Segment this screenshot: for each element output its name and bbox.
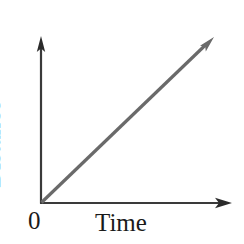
distance-time-graph: Distance Time 0: [0, 0, 244, 244]
x-axis-label: Time: [95, 210, 147, 235]
y-axis-label: Distance: [0, 101, 4, 188]
data-line-distance-vs-time: [42, 45, 207, 203]
origin-tick-label: 0: [28, 208, 41, 233]
